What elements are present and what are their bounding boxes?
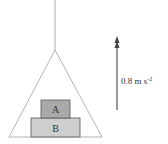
diagram-canvas: A B 0.8 m s-2 (0, 0, 168, 144)
acceleration-label: 0.8 m s-2 (121, 76, 152, 87)
acceleration-arrow-icon (115, 36, 120, 110)
block-a-label: A (52, 104, 60, 115)
block-b-label: B (52, 123, 59, 134)
